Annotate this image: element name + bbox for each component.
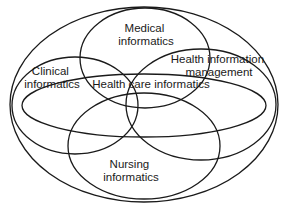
health-care-informatics-label: Health care informatics <box>92 78 210 90</box>
clinical-informatics-label: Clinical informatics <box>24 65 80 90</box>
nursing-informatics-label: Nursing informatics <box>103 158 159 183</box>
informatics-venn-diagram: Medical informatics Clinical informatics… <box>0 0 289 207</box>
health-information-management-label: Health information management <box>171 53 268 78</box>
medical-informatics-label: Medical informatics <box>118 22 174 47</box>
nursing-informatics-ellipse <box>68 93 220 199</box>
